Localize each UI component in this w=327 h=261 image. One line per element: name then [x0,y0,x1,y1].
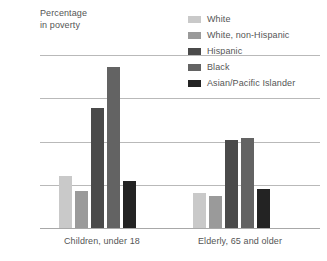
y-axis-title-line-2: in poverty [40,20,87,32]
y-axis-title: Percentage in poverty [40,8,87,31]
legend-swatch-icon [188,48,201,55]
legend-swatch-icon [188,16,201,23]
bar [59,176,72,228]
axis-baseline [40,228,320,229]
gridline [40,185,320,186]
bar [225,140,238,228]
poverty-bar-chart: Percentage in poverty White White, non-H… [0,0,327,261]
bar [209,196,222,228]
legend-item-white-non-hispanic: White, non-Hispanic [188,27,295,43]
bar [75,191,88,228]
bar [107,67,120,228]
bar [193,193,206,228]
x-axis-label-children: Children, under 18 [64,236,140,246]
gridline [40,55,320,56]
bar [241,138,254,228]
bar [91,108,104,228]
legend-item-white: White [188,11,295,27]
bar [123,181,136,228]
gridline [40,98,320,99]
legend-swatch-icon [188,32,201,39]
y-axis-title-line-1: Percentage [40,8,87,20]
x-axis-label-elderly: Elderly, 65 and older [198,236,282,246]
plot-area: 403020100 [40,55,320,228]
legend-label: White [207,14,231,24]
legend-label: White, non-Hispanic [207,30,289,40]
gridline [40,142,320,143]
bar [257,189,270,228]
